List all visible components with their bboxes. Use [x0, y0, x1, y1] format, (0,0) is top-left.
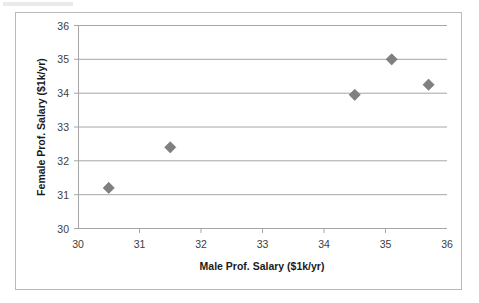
x-tick-label-34: 34 [318, 238, 330, 250]
data-point-4[interactable] [386, 54, 397, 65]
data-point-1[interactable] [103, 182, 114, 193]
y-tick-label-33: 33 [57, 121, 69, 133]
chart-figure: 36 35 34 33 32 31 30 30 31 32 33 34 35 3… [0, 0, 479, 303]
x-tickmarks [140, 229, 386, 234]
y-axis-title: Female Prof. Salary ($1k/yr) [35, 58, 47, 196]
scatter-plot: 36 35 34 33 32 31 30 30 31 32 33 34 35 3… [0, 0, 479, 303]
y-tick-label-30: 30 [57, 223, 69, 235]
x-tick-label-35: 35 [380, 238, 392, 250]
y-tick-label-35: 35 [57, 53, 69, 65]
x-axis-title: Male Prof. Salary ($1k/yr) [200, 260, 325, 272]
y-tickmarks [74, 26, 78, 229]
y-tick-label-34: 34 [57, 87, 69, 99]
data-point-5[interactable] [423, 79, 434, 90]
x-tick-label-31: 31 [134, 238, 146, 250]
data-points [103, 54, 434, 194]
y-tick-labels: 36 35 34 33 32 31 30 [57, 20, 69, 235]
y-tick-label-31: 31 [57, 189, 69, 201]
y-tick-label-36: 36 [57, 20, 69, 32]
x-tick-label-33: 33 [257, 238, 269, 250]
y-tick-label-32: 32 [57, 155, 69, 167]
data-point-2[interactable] [165, 142, 176, 153]
x-tick-label-30: 30 [72, 238, 84, 250]
data-point-3[interactable] [349, 89, 360, 100]
x-tick-label-36: 36 [441, 238, 453, 250]
x-tick-label-32: 32 [195, 238, 207, 250]
x-tick-labels: 30 31 32 33 34 35 36 [72, 238, 453, 250]
gridlines [78, 26, 447, 195]
